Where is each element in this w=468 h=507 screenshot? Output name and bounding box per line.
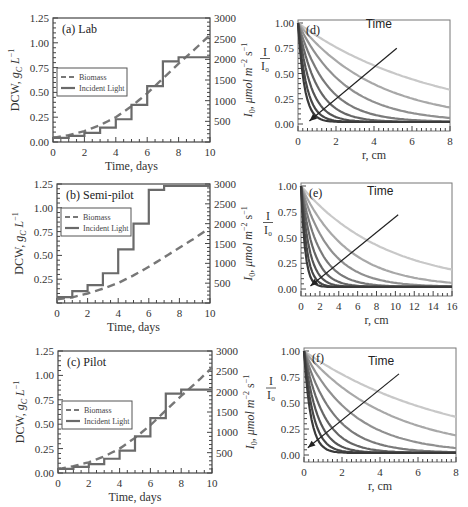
svg-text:I₀: I₀ xyxy=(261,59,269,73)
y-right-tick-label: 1000 xyxy=(214,95,237,107)
x-tick-label: 10 xyxy=(205,146,217,158)
chart-panel-e: 02468101214160.000.250.500.751.00r, cmII… xyxy=(263,180,458,327)
x-axis-title: Time, days xyxy=(107,320,160,334)
x-axis-title: r, cm xyxy=(368,479,393,493)
x-axis-title: Time, days xyxy=(109,490,162,504)
x-tick-label: 0 xyxy=(301,466,307,478)
x-tick-label: 0 xyxy=(298,300,304,312)
intensity-curve xyxy=(301,186,452,283)
svg-text:I₀: I₀ xyxy=(264,223,272,237)
chart-panel-c: 02468100.000.250.500.751.001.25500100015… xyxy=(12,345,259,504)
y-axis-title: II₀ xyxy=(263,209,273,237)
y-right-tick-label: 3000 xyxy=(214,12,237,24)
y-right-tick-label: 1500 xyxy=(214,74,237,86)
y-tick-label: 0.50 xyxy=(275,68,295,80)
time-annotation: Time xyxy=(368,354,395,368)
chart-panel-a: 02468100.000.250.500.751.001.25500100015… xyxy=(7,12,257,173)
intensity-curve xyxy=(298,23,450,90)
x-tick-label: 8 xyxy=(453,466,459,478)
y-tick-label: 1.00 xyxy=(34,202,54,214)
x-tick-label: 2 xyxy=(339,466,345,478)
y-tick-label: 0.50 xyxy=(30,86,50,98)
x-tick-label: 4 xyxy=(115,307,121,319)
y-right-tick-label: 2500 xyxy=(216,365,239,377)
y-right-tick-label: 1500 xyxy=(216,406,239,418)
y-tick-label: 0.75 xyxy=(30,62,50,74)
x-tick-label: 8 xyxy=(178,477,184,489)
y-tick-label: 0.50 xyxy=(278,232,298,244)
legend: BiomassIncident Light xyxy=(57,68,127,96)
x-tick-label: 4 xyxy=(113,146,119,158)
legend-biomass: Biomass xyxy=(84,406,112,415)
x-tick-label: 2 xyxy=(85,307,91,319)
y-tick-label: 0.25 xyxy=(34,273,54,285)
panel-label: (c) Pilot xyxy=(67,355,107,369)
time-annotation: Time xyxy=(366,17,393,31)
y-tick-label: 0.00 xyxy=(275,118,295,130)
x-tick-label: 10 xyxy=(205,307,217,319)
y-right-tick-label: 1000 xyxy=(216,426,239,438)
x-axis-title: r, cm xyxy=(364,313,389,327)
panel-label: (d) xyxy=(306,23,320,37)
y-right-tick-label: 500 xyxy=(216,447,233,459)
y-tick-label: 0.75 xyxy=(278,206,298,218)
y-tick-label: 0.25 xyxy=(275,93,295,105)
incident-light-line xyxy=(57,186,210,297)
y-axis-title: II₀ xyxy=(266,374,276,402)
y-tick-label: 0.25 xyxy=(281,423,301,435)
time-arrow xyxy=(309,48,396,121)
x-tick-label: 0 xyxy=(54,307,60,319)
x-tick-label: 6 xyxy=(148,477,154,489)
y-tick-label: 0.00 xyxy=(278,283,298,295)
y-tick-label: 0.00 xyxy=(30,136,50,148)
y-tick-label: 0.75 xyxy=(281,371,301,383)
x-tick-label: 10 xyxy=(390,300,402,312)
y-right-tick-label: 500 xyxy=(214,115,231,127)
y-right-tick-label: 3000 xyxy=(216,345,239,357)
y-right-axis-title: I0, μmol m−2 s−1 xyxy=(240,43,257,118)
y-tick-label: 1.00 xyxy=(281,345,301,357)
x-tick-label: 4 xyxy=(336,300,342,312)
y-tick-label: 1.25 xyxy=(30,12,50,24)
chart-panel-f: 024680.000.250.500.751.00r, cmII₀(f)Time xyxy=(266,345,459,493)
y-tick-label: 0.75 xyxy=(275,42,295,54)
intensity-curve xyxy=(301,186,452,287)
y-right-tick-label: 1000 xyxy=(214,257,237,269)
x-tick-label: 4 xyxy=(371,135,377,147)
y-right-tick-label: 500 xyxy=(214,277,231,289)
y-tick-label: 1.00 xyxy=(35,369,55,381)
legend-incident-light: Incident Light xyxy=(83,224,129,233)
x-axis-title: Time, days xyxy=(105,159,158,173)
x-tick-label: 0 xyxy=(55,477,61,489)
legend: BiomassIncident Light xyxy=(62,401,132,429)
legend-incident-light: Incident Light xyxy=(79,84,125,93)
y-right-tick-label: 1500 xyxy=(214,238,237,250)
x-tick-label: 8 xyxy=(177,307,183,319)
y-tick-label: 1.00 xyxy=(275,17,295,29)
x-tick-label: 16 xyxy=(447,300,459,312)
panel-label: (f) xyxy=(312,351,324,365)
x-tick-label: 2 xyxy=(333,135,339,147)
x-tick-label: 2 xyxy=(86,477,92,489)
panel-label: (b) Semi-pilot xyxy=(66,188,134,202)
x-tick-label: 0 xyxy=(295,135,301,147)
x-axis-title: r, cm xyxy=(362,148,387,162)
y-right-axis-title: I0, μmol m−2 s−1 xyxy=(242,375,259,450)
chart-panel-d: 024680.000.250.500.751.00r, cmII₀(d)Time xyxy=(260,17,453,162)
y-tick-label: 1.00 xyxy=(30,37,50,49)
figure-canvas: 02468100.000.250.500.751.001.25500100015… xyxy=(0,0,468,507)
x-tick-label: 2 xyxy=(317,300,323,312)
svg-text:I: I xyxy=(266,209,270,223)
x-tick-label: 2 xyxy=(82,146,88,158)
y-tick-label: 0.50 xyxy=(34,249,54,261)
x-tick-label: 6 xyxy=(415,466,421,478)
x-tick-label: 4 xyxy=(117,477,123,489)
x-tick-label: 12 xyxy=(409,300,420,312)
y-right-tick-label: 3000 xyxy=(214,178,237,190)
y-axis-title: DCW, gC L−1 xyxy=(7,49,24,111)
x-tick-label: 14 xyxy=(428,300,440,312)
y-axis-title: II₀ xyxy=(260,45,270,73)
y-tick-label: 0.00 xyxy=(35,467,55,479)
legend-biomass: Biomass xyxy=(83,213,111,222)
y-tick-label: 0.00 xyxy=(281,449,301,461)
